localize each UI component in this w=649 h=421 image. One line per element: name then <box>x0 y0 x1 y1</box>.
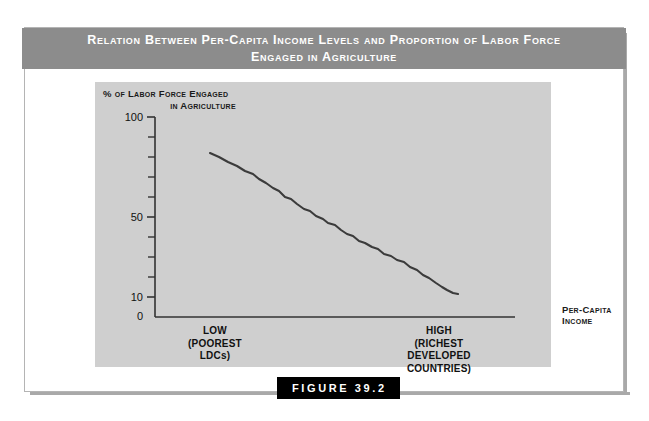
data-series-line <box>210 153 458 294</box>
x-axis-category-low: LOW (POOREST LDCs) <box>170 325 260 363</box>
y-axis-label-50: 50 <box>109 211 143 223</box>
figure-title-banner: Relation Between Per-Capita Income Level… <box>22 28 626 69</box>
figure-caption-badge: FIGURE 39.2 <box>277 377 400 399</box>
x-axis-category-high-line-1: HIGH <box>391 325 487 338</box>
figure-frame-shadow-right <box>624 33 627 395</box>
y-axis-label-10: 10 <box>109 291 143 303</box>
x-axis-category-low-line-2: (POOREST <box>170 338 260 351</box>
y-axis-label-100: 100 <box>109 111 143 123</box>
x-axis-category-high-line-3: DEVELOPED <box>391 350 487 363</box>
x-axis-category-low-line-1: LOW <box>170 325 260 338</box>
x-axis-title: Per-Capita Income <box>562 304 642 326</box>
y-axis-major-ticks <box>147 117 155 297</box>
x-axis-category-high-line-2: (RICHEST <box>391 338 487 351</box>
x-axis-category-high-line-4: COUNTRIES) <box>391 363 487 376</box>
x-axis-category-high: HIGH (RICHEST DEVELOPED COUNTRIES) <box>391 325 487 375</box>
x-axis-title-line-1: Per-Capita <box>562 304 612 315</box>
figure-title-line-1: Relation Between Per-Capita Income Level… <box>87 32 560 49</box>
x-axis-title-line-2: Income <box>562 315 593 326</box>
y-axis-label-0: 0 <box>109 310 143 322</box>
chart-panel: % of Labor Force Engaged in Agriculture … <box>95 82 551 367</box>
figure-title-line-2: Engaged in Agriculture <box>251 49 397 66</box>
y-axis-minor-ticks <box>148 137 155 277</box>
x-axis-category-low-line-3: LDCs) <box>170 350 260 363</box>
